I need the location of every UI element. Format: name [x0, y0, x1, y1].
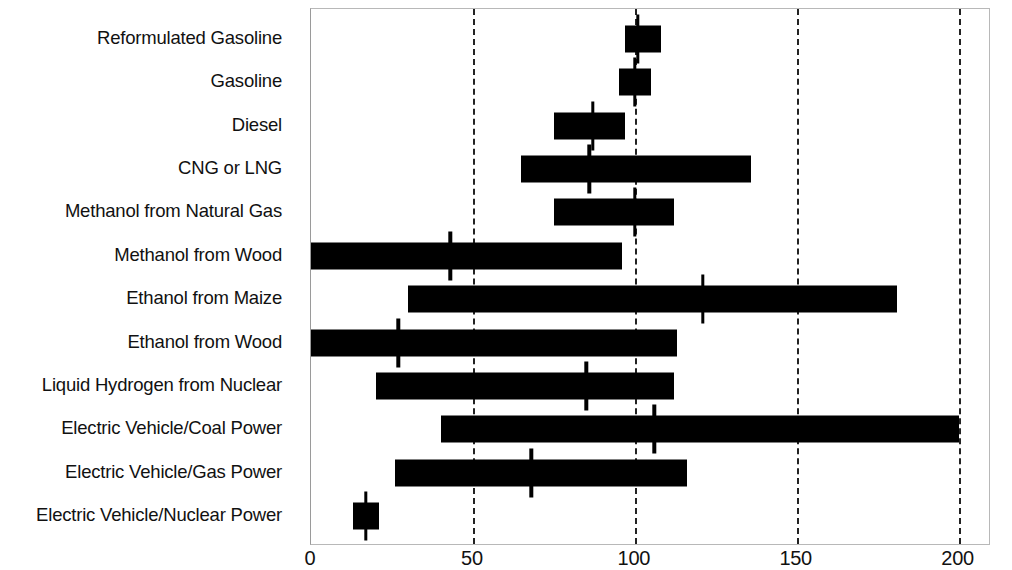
x-axis: 050100150200 — [310, 545, 990, 570]
gridline-200 — [959, 9, 961, 544]
chart-figure: Reformulated GasolineGasolineDieselCNG o… — [0, 0, 1012, 570]
range-bar — [311, 329, 677, 356]
x-tick-label: 50 — [461, 547, 483, 570]
category-label: Electric Vehicle/Nuclear Power — [36, 506, 282, 525]
value-marker-tick — [588, 144, 591, 193]
range-bar — [554, 112, 625, 139]
plot-area — [310, 8, 990, 545]
range-bar — [441, 416, 959, 443]
category-label: Electric Vehicle/Coal Power — [61, 419, 282, 438]
category-label: Diesel — [232, 115, 282, 134]
x-tick-label: 100 — [618, 547, 650, 570]
value-marker-tick — [633, 188, 636, 237]
value-marker-tick — [397, 318, 400, 367]
range-bar — [521, 155, 751, 182]
category-label: Ethanol from Wood — [127, 332, 282, 351]
x-tick-label: 200 — [941, 547, 973, 570]
value-marker-tick — [653, 405, 656, 454]
value-marker-tick — [633, 58, 636, 107]
range-bar — [376, 373, 674, 400]
range-bar — [311, 242, 622, 269]
category-label: Liquid Hydrogen from Nuclear — [42, 376, 282, 395]
category-label: Ethanol from Maize — [126, 289, 282, 308]
category-label: Methanol from Wood — [114, 246, 282, 265]
category-label: CNG or LNG — [178, 159, 282, 178]
category-label: Gasoline — [211, 72, 282, 91]
category-axis-labels: Reformulated GasolineGasolineDieselCNG o… — [0, 0, 300, 545]
plot-inner — [311, 9, 989, 544]
range-bar — [554, 199, 674, 226]
x-tick-label: 150 — [779, 547, 811, 570]
gridline-150 — [797, 9, 799, 544]
category-label: Methanol from Natural Gas — [65, 202, 282, 221]
value-marker-tick — [364, 492, 367, 541]
value-marker-tick — [585, 362, 588, 411]
value-marker-tick — [449, 231, 452, 280]
value-marker-tick — [529, 448, 532, 497]
category-label: Electric Vehicle/Gas Power — [65, 463, 282, 482]
value-marker-tick — [636, 14, 639, 63]
value-marker-tick — [591, 101, 594, 150]
value-marker-tick — [701, 275, 704, 324]
range-bar — [408, 286, 897, 313]
category-label: Reformulated Gasoline — [97, 28, 282, 47]
range-bar — [625, 25, 661, 52]
x-tick-label: 0 — [305, 547, 316, 570]
range-bar — [395, 459, 686, 486]
